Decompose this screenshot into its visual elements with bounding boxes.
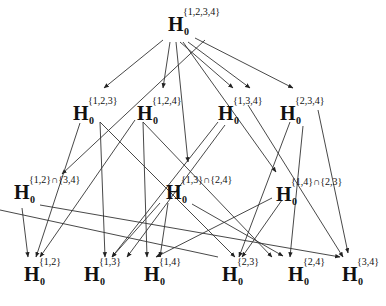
edges	[0, 38, 348, 257]
hypothesis-subscript: 0	[30, 194, 35, 205]
hypothesis-index-set: {1,3,4}	[233, 95, 263, 106]
hypothesis-index-set: {1,2,4}	[152, 95, 182, 106]
edge-arrow	[112, 122, 218, 257]
hypothesis-index-set: {1,2,3,4}	[183, 6, 220, 17]
hypothesis-symbol: H	[137, 102, 153, 124]
hypothesis-index-set: {3,4}	[357, 256, 379, 267]
hypothesis-symbol: H	[218, 102, 234, 124]
edge-arrow	[163, 42, 170, 88]
hypothesis-symbol: H	[24, 263, 40, 285]
edge-arrow	[36, 123, 80, 257]
hypothesis-node-n12: H{1,2}0	[24, 264, 40, 285]
hypothesis-node-n13: H{1,3}0	[84, 264, 100, 285]
hypothesis-node-n134: H{1,3,4}0	[218, 103, 234, 124]
hypothesis-index-set: {1,2}	[39, 256, 61, 267]
hypothesis-symbol: H	[84, 263, 100, 285]
hypothesis-node-n12_34: H{1,2}∩{3,4}0	[14, 182, 30, 203]
hypothesis-subscript: 0	[182, 194, 187, 205]
edge-arrow	[143, 122, 272, 257]
hypothesis-symbol: H	[342, 263, 358, 285]
hypothesis-index-set: {2,4}	[303, 256, 325, 267]
hypothesis-subscript: 0	[358, 276, 363, 287]
hypothesis-index-set: {1,3}	[99, 256, 121, 267]
hypothesis-subscript: 0	[184, 26, 189, 37]
hypothesis-node-n14_23: H{1,4}∩{2,3}0	[276, 184, 292, 205]
edge-arrow	[188, 42, 250, 88]
edge-arrow	[104, 40, 163, 88]
hypothesis-node-n34: H{3,4}0	[342, 264, 358, 285]
hypothesis-subscript: 0	[234, 115, 239, 126]
hypothesis-symbol: H	[288, 263, 304, 285]
hypothesis-node-n124: H{1,2,4}0	[137, 103, 153, 124]
edge-arrow	[143, 122, 147, 257]
hypothesis-subscript: 0	[296, 115, 301, 126]
hypothesis-index-set: {2,3,4}	[295, 95, 325, 106]
hypothesis-node-n14: H{1,4}0	[144, 264, 160, 285]
hypothesis-symbol: H	[14, 181, 30, 203]
hypothesis-node-n234: H{2,3,4}0	[280, 103, 296, 124]
edge-arrow	[40, 205, 340, 257]
hypothesis-index-set: {1,4}	[159, 256, 181, 267]
hypothesis-node-n1234: H{1,2,3,4}0	[168, 14, 184, 35]
hypothesis-node-n24: H{2,4}0	[288, 264, 304, 285]
hypothesis-index-set: {1,3}∩{2,4}	[181, 174, 232, 185]
edge-arrow	[112, 203, 160, 257]
hypothesis-node-n23: H{2,3}0	[222, 264, 238, 285]
hypothesis-index-set: {2,3}	[237, 256, 259, 267]
hypothesis-index-set: {1,2,3}	[88, 95, 118, 106]
hypothesis-subscript: 0	[100, 276, 105, 287]
hypothesis-symbol: H	[168, 13, 184, 35]
edge-arrow	[156, 198, 272, 257]
edge-arrow	[195, 38, 293, 88]
hypothesis-subscript: 0	[304, 276, 309, 287]
hypothesis-subscript: 0	[40, 276, 45, 287]
hypothesis-symbol: H	[166, 181, 182, 203]
hypothesis-subscript: 0	[238, 276, 243, 287]
hypothesis-index-set: {1,2}∩{3,4}	[29, 174, 80, 185]
hypothesis-symbol: H	[144, 263, 160, 285]
hypothesis-subscript: 0	[89, 115, 94, 126]
hypothesis-symbol: H	[222, 263, 238, 285]
hypothesis-node-n13_24: H{1,3}∩{2,4}0	[166, 182, 182, 203]
edge-arrow	[192, 204, 283, 256]
hypothesis-subscript: 0	[160, 276, 165, 287]
hypothesis-symbol: H	[280, 102, 296, 124]
edge-arrow	[100, 122, 105, 257]
edge-arrow	[242, 200, 282, 257]
hypothesis-index-set: {1,4}∩{2,3}	[291, 176, 342, 187]
hypothesis-symbol: H	[73, 102, 89, 124]
hypothesis-subscript: 0	[292, 196, 297, 207]
hypothesis-node-n123: H{1,2,3}0	[73, 103, 89, 124]
hypothesis-subscript: 0	[153, 115, 158, 126]
hypothesis-symbol: H	[276, 183, 292, 205]
